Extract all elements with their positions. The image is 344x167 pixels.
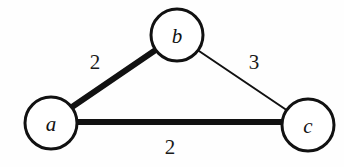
edge-b-c[interactable] [199, 51, 288, 111]
node-c[interactable]: c [282, 99, 334, 151]
graph-canvas: a b c 2 3 2 [0, 0, 344, 167]
node-c-label: c [303, 114, 313, 138]
node-b[interactable]: b [151, 9, 203, 61]
edge-b-c-weight: 3 [249, 50, 260, 74]
edge-a-b[interactable] [72, 47, 160, 107]
node-a[interactable]: a [25, 97, 77, 149]
edge-a-b-weight: 2 [90, 50, 101, 74]
graph-diagram: a b c 2 3 2 [0, 0, 344, 167]
node-a-label: a [46, 112, 57, 136]
node-layer: a b c [25, 9, 334, 151]
node-b-label: b [172, 24, 183, 48]
edge-weight-layer: 2 3 2 [90, 50, 260, 159]
edge-a-c-weight: 2 [165, 135, 176, 159]
